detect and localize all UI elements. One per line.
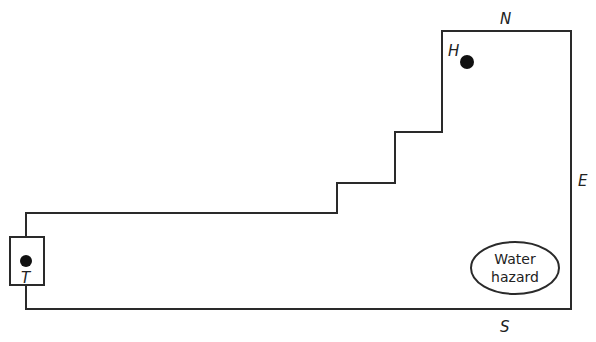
water-hazard: [471, 242, 559, 294]
water-hazard-label-line2: hazard: [491, 269, 539, 285]
water-hazard-label-line1: Water: [494, 251, 536, 267]
tee-marker-icon: [20, 255, 32, 267]
north-label: N: [500, 10, 511, 28]
golf-hole-diagram: T H N E S Water hazard: [0, 0, 596, 342]
south-label: S: [500, 318, 510, 336]
hole-marker-icon: [460, 55, 474, 69]
course-outline: [26, 31, 571, 309]
hole-label: H: [448, 42, 459, 60]
east-label: E: [578, 172, 588, 190]
